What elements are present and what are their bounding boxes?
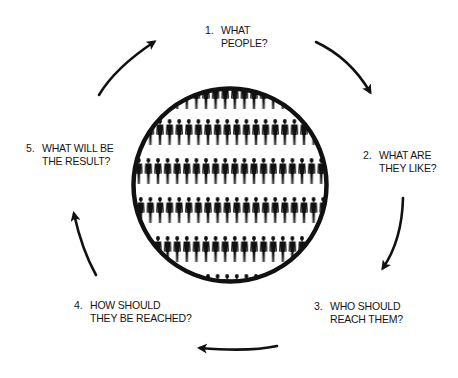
step-2-label: 2.WHAT ARE THEY LIKE? — [363, 149, 436, 175]
step-1-number: 1. — [205, 24, 221, 37]
step-1-line1: WHAT — [221, 24, 250, 36]
step-1-label: 1.WHAT PEOPLE? — [205, 24, 267, 50]
arrow-5-to-1-icon — [99, 42, 154, 95]
step-5-line2: THE RESULT? — [26, 155, 114, 168]
step-3-line1: WHO SHOULD — [330, 300, 400, 312]
step-5-label: 5.WHAT WILL BE THE RESULT? — [26, 142, 114, 168]
step-4-number: 4. — [74, 299, 90, 312]
arrow-3-to-4-icon — [200, 346, 277, 350]
step-3-number: 3. — [314, 300, 330, 313]
step-1-line2: PEOPLE? — [205, 37, 267, 50]
cycle-diagram: 1.WHAT PEOPLE? 2.WHAT ARE THEY LIKE? 3.W… — [0, 0, 458, 378]
step-4-line2: THEY BE REACHED? — [74, 312, 192, 325]
arrow-4-to-5-icon — [74, 214, 96, 275]
step-5-number: 5. — [26, 142, 42, 155]
step-2-number: 2. — [363, 149, 379, 162]
step-3-line2: REACH THEM? — [314, 313, 403, 326]
arrow-1-to-2-icon — [316, 42, 370, 92]
step-4-label: 4.HOW SHOULD THEY BE REACHED? — [74, 299, 192, 325]
step-4-line1: HOW SHOULD — [90, 299, 160, 311]
step-5-line1: WHAT WILL BE — [42, 142, 114, 154]
step-2-line1: WHAT ARE — [379, 149, 431, 161]
arrow-2-to-3-icon — [383, 198, 403, 268]
step-2-line2: THEY LIKE? — [363, 162, 436, 175]
step-3-label: 3.WHO SHOULD REACH THEM? — [314, 300, 403, 326]
